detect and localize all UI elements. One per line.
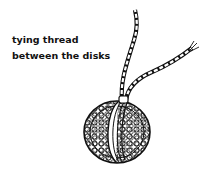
woven-ball bbox=[84, 96, 150, 163]
thread-ball-illustration bbox=[0, 0, 210, 174]
thread-strand-diagonal bbox=[126, 41, 199, 100]
